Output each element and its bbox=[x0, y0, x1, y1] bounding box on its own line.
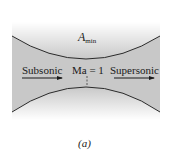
supersonic-label: Supersonic bbox=[110, 64, 159, 76]
subsonic-label: Subsonic bbox=[22, 64, 62, 76]
figure-caption: (a) bbox=[78, 137, 91, 149]
amin-label: Amin bbox=[78, 30, 96, 45]
mach-label: Ma = 1 bbox=[72, 64, 104, 76]
